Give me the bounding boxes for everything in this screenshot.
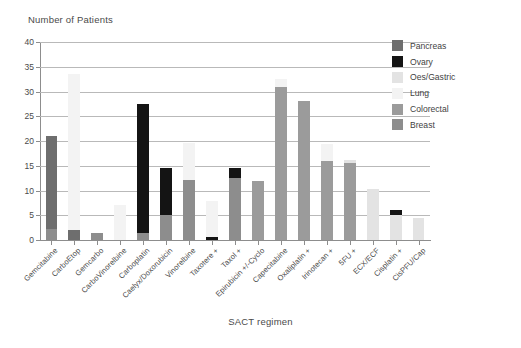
bar-column[interactable] (344, 160, 356, 240)
x-tick-mark (97, 241, 98, 245)
x-tick-mark (74, 241, 75, 245)
bar-column[interactable] (114, 205, 126, 240)
y-tick-mark (36, 215, 40, 216)
bar-segment[interactable] (46, 229, 58, 240)
legend-label: Ovary (410, 57, 433, 67)
x-tick-mark (143, 241, 144, 245)
x-tick-mark (189, 241, 190, 245)
y-axis-title: Number of Patients (28, 14, 113, 25)
bar-segment[interactable] (91, 233, 103, 240)
x-tick-mark (350, 241, 351, 245)
bar-segment[interactable] (114, 205, 126, 240)
y-tick-label: 15 (0, 161, 34, 171)
legend-item[interactable]: Ovary (392, 54, 516, 70)
y-tick-label: 10 (0, 186, 34, 196)
y-tick-mark (36, 92, 40, 93)
bar-segment[interactable] (68, 230, 80, 240)
bar-segment[interactable] (137, 104, 149, 233)
bar-segment[interactable] (229, 178, 241, 240)
x-tick-mark (327, 241, 328, 245)
bar-column[interactable] (298, 101, 310, 240)
bar-column[interactable] (252, 181, 264, 240)
bar-chart: Number of Patients 0510152025303540 Gemc… (0, 0, 521, 348)
bar-segment[interactable] (206, 237, 218, 240)
bar-segment[interactable] (160, 168, 172, 215)
bar-column[interactable] (46, 136, 58, 240)
legend-item[interactable]: Oes/Gastric (392, 70, 516, 86)
bar-segment[interactable] (344, 163, 356, 240)
bar-column[interactable] (160, 168, 172, 240)
y-tick-mark (36, 166, 40, 167)
bar-column[interactable] (275, 79, 287, 240)
bar-series-group (40, 42, 430, 240)
bar-column[interactable] (206, 201, 218, 240)
legend: PancreasOvaryOes/GastricLungColorectalBr… (392, 38, 516, 133)
y-tick-mark (36, 240, 40, 241)
bar-column[interactable] (137, 104, 149, 240)
plot-area (40, 42, 430, 240)
legend-swatch (392, 40, 403, 51)
bar-segment[interactable] (46, 136, 58, 229)
bar-column[interactable] (413, 218, 425, 240)
bar-column[interactable] (321, 144, 333, 241)
legend-swatch (392, 119, 403, 130)
bar-segment[interactable] (68, 74, 80, 230)
x-axis-title: SACT regimen (0, 316, 521, 327)
legend-label: Oes/Gastric (410, 72, 455, 82)
bar-column[interactable] (390, 210, 402, 240)
y-tick-label: 30 (0, 87, 34, 97)
bar-segment[interactable] (275, 87, 287, 240)
y-tick-mark (36, 116, 40, 117)
bar-segment[interactable] (321, 161, 333, 240)
y-tick-label: 0 (0, 235, 34, 245)
x-tick-mark (235, 241, 236, 245)
y-tick-mark (36, 67, 40, 68)
bar-segment[interactable] (229, 168, 241, 178)
x-tick-mark (120, 241, 121, 245)
y-tick-label: 5 (0, 210, 34, 220)
bar-column[interactable] (68, 74, 80, 240)
bar-segment[interactable] (183, 143, 195, 180)
x-tick-mark (419, 241, 420, 245)
legend-swatch (392, 88, 403, 99)
bar-segment[interactable] (206, 201, 218, 237)
x-axis-labels: GemcitabineCarboEtopGemcarboCarboVinorel… (40, 246, 431, 316)
bar-column[interactable] (367, 189, 379, 240)
bar-segment[interactable] (298, 101, 310, 240)
bar-segment[interactable] (275, 79, 287, 87)
bar-segment[interactable] (137, 233, 149, 240)
bar-segment[interactable] (321, 144, 333, 161)
y-tick-label: 40 (0, 37, 34, 47)
legend-label: Breast (410, 120, 435, 130)
bar-segment[interactable] (160, 215, 172, 240)
y-tick-mark (36, 141, 40, 142)
legend-swatch (392, 56, 403, 67)
y-tick-label: 25 (0, 111, 34, 121)
x-tick-mark (212, 241, 213, 245)
legend-item[interactable]: Pancreas (392, 38, 516, 54)
bar-column[interactable] (229, 168, 241, 240)
x-tick-mark (281, 241, 282, 245)
legend-item[interactable]: Colorectal (392, 101, 516, 117)
legend-item[interactable]: Breast (392, 117, 516, 133)
bar-column[interactable] (183, 143, 195, 240)
legend-label: Pancreas (410, 41, 446, 51)
x-tick-mark (166, 241, 167, 245)
bar-segment[interactable] (252, 181, 264, 240)
x-tick-mark (51, 241, 52, 245)
legend-swatch (392, 72, 403, 83)
bar-segment[interactable] (367, 189, 379, 240)
legend-swatch (392, 104, 403, 115)
y-tick-label: 20 (0, 136, 34, 146)
y-tick-label: 35 (0, 62, 34, 72)
bar-segment[interactable] (413, 218, 425, 240)
x-tick-mark (373, 241, 374, 245)
legend-item[interactable]: Lung (392, 85, 516, 101)
x-tick-mark (396, 241, 397, 245)
y-tick-mark (36, 42, 40, 43)
y-tick-mark (36, 191, 40, 192)
bar-segment[interactable] (183, 180, 195, 240)
x-tick-mark (258, 241, 259, 245)
bar-column[interactable] (91, 233, 103, 240)
bar-segment[interactable] (390, 215, 402, 240)
